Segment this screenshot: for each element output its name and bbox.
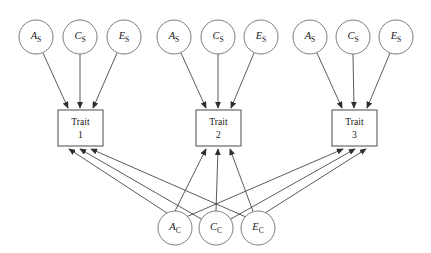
specific-factor-node-C_S_1: CS [63, 20, 97, 54]
factor-subscript: S [219, 34, 223, 43]
sem-path-diagram: Trait1Trait2Trait3 ASCSESASCSESASCSESACC… [0, 0, 431, 253]
path-arrow-E_C-to-trait2 [230, 149, 254, 214]
specific-factor-node-C_S_2: CS [201, 20, 235, 54]
path-arrow-A_C-to-trait3 [186, 149, 343, 217]
path-arrow-E_C-to-trait3 [265, 149, 366, 213]
trait-box-trait1: Trait1 [58, 110, 103, 146]
trait-box-label-line1: Trait [71, 116, 90, 127]
common-factor-node-E_C: EC [241, 211, 275, 245]
factor-subscript: S [175, 34, 179, 43]
path-arrow-A_C-to-trait1 [69, 149, 167, 213]
trait-box-label-line2: 3 [352, 129, 357, 140]
trait-box-label-line1: Trait [345, 116, 364, 127]
factor-subscript: S [262, 34, 266, 43]
factor-subscript: C [217, 225, 222, 234]
specific-factor-node-E_S_3: ES [379, 20, 413, 54]
trait-box-trait2: Trait2 [196, 110, 241, 146]
specific-factor-node-C_S_3: CS [336, 20, 370, 54]
trait-box-label-line2: 2 [216, 129, 221, 140]
common-factor-node-A_C: AC [158, 211, 192, 245]
factor-subscript: S [37, 34, 41, 43]
path-arrow-C_C-to-trait1 [80, 149, 203, 220]
specific-factor-node-E_S_1: ES [107, 20, 141, 54]
path-diagram-container: Trait1Trait2Trait3 ASCSESASCSESASCSESACC… [0, 0, 431, 253]
specific-factor-node-A_S_2: AS [157, 20, 191, 54]
path-arrow-E_S_1-to-trait1 [93, 53, 117, 108]
path-arrow-C_C-to-trait2 [216, 149, 218, 211]
path-arrow-A_S_1-to-trait1 [43, 53, 68, 108]
path-arrow-A_C-to-trait2 [175, 149, 206, 211]
path-arrow-E_S_2-to-trait2 [231, 53, 254, 108]
common-factor-node-C_C: CC [199, 211, 233, 245]
trait-boxes-layer: Trait1Trait2Trait3 [58, 110, 377, 146]
path-arrow-A_S_2-to-trait2 [181, 53, 206, 108]
factor-subscript: S [397, 34, 401, 43]
specific-factor-node-E_S_2: ES [244, 20, 278, 54]
factor-subscript: S [354, 34, 358, 43]
factor-subscript: S [311, 34, 315, 43]
trait-box-trait3: Trait3 [332, 110, 377, 146]
specific-factor-node-A_S_3: AS [293, 20, 327, 54]
path-arrow-E_S_3-to-trait3 [367, 53, 390, 108]
path-arrow-C_S_3-to-trait3 [353, 54, 354, 108]
factor-subscript: S [81, 34, 85, 43]
path-arrow-A_S_3-to-trait3 [317, 53, 342, 108]
factor-subscript: S [125, 34, 129, 43]
trait-box-label-line2: 1 [78, 129, 83, 140]
path-arrow-C_C-to-trait3 [229, 149, 355, 220]
path-arrow-E_C-to-trait1 [91, 149, 246, 217]
specific-factor-node-A_S_1: AS [19, 20, 53, 54]
trait-box-label-line1: Trait [209, 116, 228, 127]
factor-subscript: C [259, 225, 264, 234]
factor-subscript: C [176, 225, 181, 234]
